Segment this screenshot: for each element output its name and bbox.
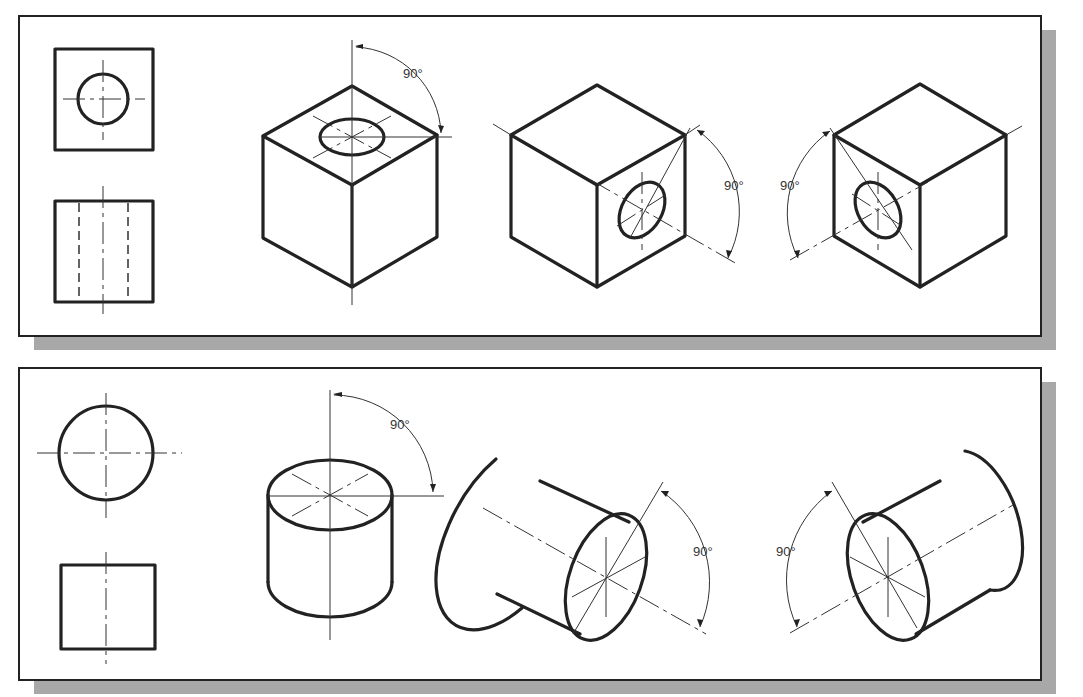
angle-label: 90°: [390, 417, 410, 432]
cylinder-panel: 90° 90°: [19, 368, 1056, 694]
angle-label: 90°: [693, 544, 713, 559]
angle-label: 90°: [780, 178, 800, 193]
isometric-drawing-figure: 90° 90°: [0, 0, 1083, 697]
angle-label: 90°: [724, 178, 744, 193]
panel-frame: [19, 368, 1041, 680]
panel-frame: [19, 16, 1041, 336]
angle-label: 90°: [776, 544, 796, 559]
cube-panel: 90° 90°: [19, 16, 1056, 350]
angle-label: 90°: [403, 66, 423, 81]
